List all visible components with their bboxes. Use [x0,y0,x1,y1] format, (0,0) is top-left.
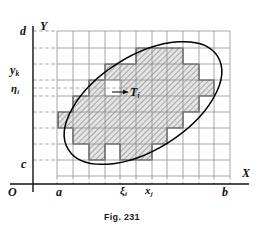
x-tick-label-xi-i: ξi [120,185,127,196]
x-tick-label-xj: xj [145,185,152,196]
y-tick-label-eta-i: ηi [11,83,19,94]
origin-label: O [8,186,17,198]
x-tick-label-a: a [56,186,62,198]
x-tick-label-b: b [222,186,228,198]
y-axis-label: Y [40,20,47,32]
x-guide-dashed-lines [57,176,230,184]
y-tick-label-yk: yk [10,64,19,76]
y-guide-dashed-lines [33,31,57,160]
figure-container: Y X O d yk ηi c a ξi xj b Ti Fig. 231 [0,0,264,233]
figure-caption: Fig. 231 [104,212,140,222]
cell-label-Ti: Ti [130,86,139,98]
y-tick-label-c: c [21,158,26,170]
y-tick-label-d: d [20,25,26,37]
x-axis-label: X [242,167,250,179]
